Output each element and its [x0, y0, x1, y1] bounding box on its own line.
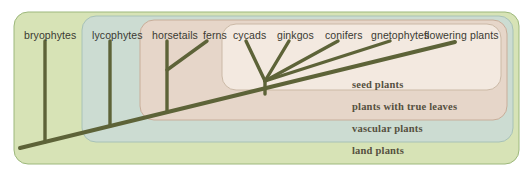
- taxon-label-conifers: conifers: [325, 29, 363, 41]
- clade-label-seed-plants: seed plants: [352, 79, 404, 91]
- clade-label-vascular-plants: vascular plants: [352, 123, 423, 135]
- cladogram-figure: bryophytes lycophytes horsetails ferns c…: [0, 0, 529, 176]
- taxon-label-cycads: cycads: [233, 29, 266, 41]
- taxon-label-ferns: ferns: [203, 29, 227, 41]
- clade-label-land-plants: land plants: [352, 145, 404, 157]
- clade-label-true-leaves: plants with true leaves: [352, 101, 457, 113]
- taxon-label-lycophytes: lycophytes: [92, 29, 143, 41]
- taxon-label-horsetails: horsetails: [152, 29, 198, 41]
- taxon-label-bryophytes: bryophytes: [24, 29, 76, 41]
- cladogram-canvas: [0, 0, 529, 176]
- taxon-label-gnetophytes: gnetophytes: [371, 29, 429, 41]
- taxon-label-ginkgos: ginkgos: [277, 29, 314, 41]
- taxon-label-flowering-plants: flowering plants: [424, 29, 499, 41]
